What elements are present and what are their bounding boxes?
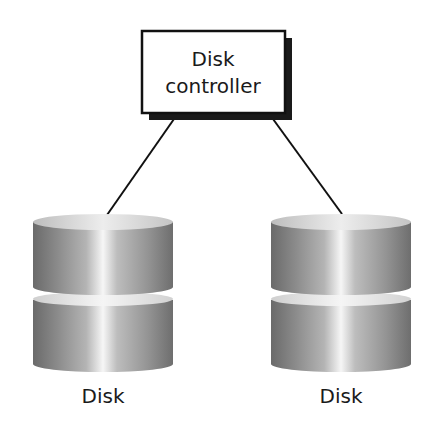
controller-body xyxy=(142,31,285,113)
controller-label-line2: controller xyxy=(165,74,261,98)
disk-left-top-cap xyxy=(33,214,173,230)
disk-controller-diagram: Disk controller Disk Disk xyxy=(0,0,429,421)
disk-right: Disk xyxy=(271,214,411,408)
disk-right-label: Disk xyxy=(320,384,363,408)
disk-right-top-cap xyxy=(271,214,411,230)
disk-controller-box: Disk controller xyxy=(142,31,292,120)
controller-label-line1: Disk xyxy=(192,47,235,71)
connector-line-right xyxy=(273,119,342,214)
disk-left: Disk xyxy=(33,214,173,408)
disk-left-label: Disk xyxy=(82,384,125,408)
connector-line-left xyxy=(107,119,174,215)
